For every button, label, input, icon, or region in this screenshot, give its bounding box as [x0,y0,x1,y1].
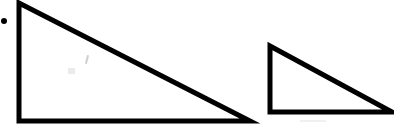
bullet-dot [1,18,7,24]
canvas-background [0,0,394,137]
figure-canvas [0,0,394,137]
triangles-figure [0,0,394,137]
